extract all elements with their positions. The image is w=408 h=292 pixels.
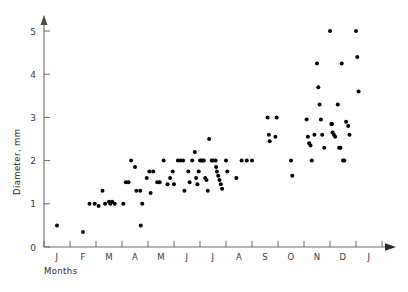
y-tick-label: 5 — [30, 27, 36, 37]
data-point — [224, 159, 228, 163]
data-point — [289, 159, 293, 163]
data-point — [338, 146, 342, 150]
x-month-label: J — [367, 252, 371, 262]
data-point — [330, 122, 334, 126]
data-point — [151, 169, 155, 173]
data-point — [225, 169, 229, 173]
data-point — [205, 178, 209, 182]
data-point — [267, 133, 271, 137]
data-point — [220, 187, 224, 191]
data-point — [250, 159, 254, 163]
data-point — [139, 223, 143, 227]
data-point — [133, 165, 137, 169]
data-point — [190, 159, 194, 163]
x-axis-arrow-icon — [385, 243, 396, 250]
data-point — [202, 159, 206, 163]
data-point — [310, 159, 314, 163]
data-point — [357, 89, 361, 93]
data-point — [342, 159, 346, 163]
data-point — [306, 135, 310, 139]
axis-group — [41, 15, 397, 251]
data-point — [344, 120, 348, 124]
data-point — [171, 169, 175, 173]
data-point — [134, 189, 138, 193]
x-tick-group: JFMAMJJASONDJ — [44, 241, 382, 262]
data-point — [147, 169, 151, 173]
data-point — [336, 102, 340, 106]
data-point — [166, 182, 170, 186]
data-point — [88, 202, 92, 206]
data-point — [181, 159, 185, 163]
data-point — [127, 180, 131, 184]
data-point — [316, 85, 320, 89]
data-point — [182, 189, 186, 193]
data-point — [340, 61, 344, 65]
x-month-label: M — [105, 252, 113, 262]
data-point — [328, 29, 332, 33]
data-point — [309, 143, 313, 147]
y-tick-label: 1 — [30, 199, 36, 209]
data-point — [101, 189, 105, 193]
data-point — [333, 135, 337, 139]
data-point — [216, 174, 220, 178]
data-point — [113, 202, 117, 206]
y-tick-group: 543210 — [30, 27, 50, 253]
data-point — [129, 159, 133, 163]
x-month-label: A — [132, 252, 138, 262]
data-point — [197, 169, 201, 173]
plot-canvas: 543210 JFMAMJJASONDJ Diameter, mm Months — [0, 0, 408, 292]
x-month-label: O — [288, 252, 295, 262]
data-point — [140, 202, 144, 206]
x-month-label: J — [211, 252, 215, 262]
x-month-label: M — [157, 252, 165, 262]
data-point — [188, 180, 192, 184]
y-axis-title: Diameter, mm — [12, 129, 22, 195]
x-month-label: A — [236, 252, 242, 262]
data-point — [322, 146, 326, 150]
data-point — [103, 202, 107, 206]
data-point — [245, 159, 249, 163]
data-point — [149, 191, 153, 195]
y-tick-label: 3 — [30, 113, 36, 123]
y-tick-label: 0 — [30, 243, 36, 253]
data-point — [214, 165, 218, 169]
x-month-label: F — [80, 252, 85, 262]
data-point — [319, 118, 323, 122]
data-point — [97, 204, 101, 208]
y-tick-label: 4 — [30, 70, 36, 80]
data-point — [275, 115, 279, 119]
data-point — [93, 202, 97, 206]
data-point — [158, 180, 162, 184]
data-point — [318, 102, 322, 106]
data-point — [193, 150, 197, 154]
data-point — [312, 133, 316, 137]
data-point — [206, 189, 210, 193]
data-point — [186, 169, 190, 173]
data-point — [172, 182, 176, 186]
data-point — [305, 118, 309, 122]
data-point — [348, 133, 352, 137]
x-axis-title: Months — [44, 266, 78, 276]
data-point — [194, 176, 198, 180]
data-point — [266, 115, 270, 119]
y-tick-label: 2 — [30, 156, 36, 166]
data-point — [273, 135, 277, 139]
x-month-label: J — [185, 252, 189, 262]
data-point — [207, 137, 211, 141]
data-point — [81, 230, 85, 234]
data-point — [268, 139, 272, 143]
data-point — [240, 159, 244, 163]
data-point — [355, 55, 359, 59]
x-month-label: S — [262, 252, 268, 262]
data-point — [138, 189, 142, 193]
data-point — [218, 178, 222, 182]
x-month-label: N — [314, 252, 321, 262]
data-point-layer — [55, 29, 361, 234]
y-axis-arrow-icon — [41, 15, 48, 25]
data-point — [121, 202, 125, 206]
data-point — [195, 182, 199, 186]
data-point — [290, 174, 294, 178]
x-month-label: D — [340, 252, 347, 262]
data-point — [346, 124, 350, 128]
data-point — [234, 176, 238, 180]
